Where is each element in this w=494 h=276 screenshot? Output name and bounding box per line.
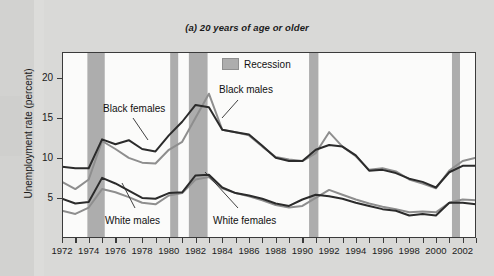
x-tick-label-1984: 1984 — [212, 245, 233, 256]
annotation-leader-1 — [133, 118, 148, 140]
x-tick-label-1976: 1976 — [105, 245, 126, 256]
y-tick-15 — [57, 118, 62, 119]
x-tick-1974 — [89, 238, 90, 243]
x-tick-label-1992: 1992 — [319, 245, 340, 256]
annotation-leader-4 — [205, 172, 238, 208]
x-tick-label-2000: 2000 — [425, 245, 446, 256]
axis-frame-bottom — [62, 237, 476, 238]
x-tick-1999 — [423, 238, 424, 243]
x-tick-1992 — [329, 238, 330, 243]
page-margin-left-2 — [34, 0, 44, 276]
x-tick-1980 — [169, 238, 170, 243]
x-tick-1997 — [396, 238, 397, 243]
x-tick-1989 — [289, 238, 290, 243]
recession-band-1 — [87, 52, 104, 238]
x-tick-label-1994: 1994 — [345, 245, 366, 256]
x-tick-1987 — [262, 238, 263, 243]
x-tick-1984 — [222, 238, 223, 243]
x-tick-label-1980: 1980 — [158, 245, 179, 256]
y-tick-label-5: 5 — [47, 193, 53, 203]
y-tick-20 — [57, 78, 62, 79]
legend-label-recession: Recession — [244, 59, 291, 70]
x-tick-1975 — [102, 238, 103, 243]
y-tick-label-10: 10 — [42, 153, 53, 163]
chart-title: (a) 20 years of age or older — [0, 22, 494, 33]
x-tick-label-1978: 1978 — [132, 245, 153, 256]
recession-band-3 — [189, 52, 208, 238]
x-tick-1983 — [209, 238, 210, 243]
x-tick-label-1982: 1982 — [185, 245, 206, 256]
x-tick-1973 — [75, 238, 76, 243]
x-tick-1982 — [196, 238, 197, 243]
annotation-black-males: Black males — [219, 84, 273, 95]
annotation-leader-2 — [222, 100, 238, 118]
x-tick-1979 — [156, 238, 157, 243]
x-tick-1990 — [302, 238, 303, 243]
x-tick-1988 — [276, 238, 277, 243]
x-tick-label-1990: 1990 — [292, 245, 313, 256]
plot-area: 5101520 19721974197619781980198219841986… — [62, 52, 476, 238]
series-line-black-males — [62, 105, 476, 188]
axis-frame-left — [62, 52, 63, 238]
x-tick-1977 — [129, 238, 130, 243]
recession-band-4 — [309, 52, 318, 238]
x-tick-label-1998: 1998 — [399, 245, 420, 256]
recession-band-5 — [452, 52, 460, 238]
x-tick-1985 — [236, 238, 237, 243]
x-tick-1995 — [369, 238, 370, 243]
x-tick-label-1972: 1972 — [51, 245, 72, 256]
y-tick-label-15: 15 — [42, 113, 53, 123]
x-tick-2000 — [436, 238, 437, 243]
series-line-white-females — [62, 177, 476, 214]
figure-page: (a) 20 years of age or older Unemploymen… — [0, 0, 494, 276]
x-tick-1972 — [62, 238, 63, 243]
y-axis-label: Unemployment rate (percent) — [23, 34, 34, 234]
y-tick-label-20: 20 — [42, 73, 53, 83]
x-tick-2003 — [476, 238, 477, 243]
x-tick-1986 — [249, 238, 250, 243]
x-tick-1998 — [409, 238, 410, 243]
annotation-black-females: Black females — [103, 103, 165, 114]
axis-frame-right — [475, 52, 476, 238]
chart-canvas — [62, 52, 476, 238]
legend: Recession — [222, 58, 291, 70]
x-tick-1996 — [383, 238, 384, 243]
y-tick-5 — [57, 198, 62, 199]
annotation-white-females: White females — [213, 215, 276, 226]
axis-frame-top — [62, 52, 476, 53]
annotation-white-males: White males — [105, 215, 160, 226]
x-tick-1994 — [356, 238, 357, 243]
x-tick-2001 — [449, 238, 450, 243]
y-tick-10 — [57, 158, 62, 159]
x-tick-2002 — [463, 238, 464, 243]
x-tick-label-2002: 2002 — [452, 245, 473, 256]
page-margin-patch — [0, 96, 22, 156]
x-tick-1976 — [115, 238, 116, 243]
recession-swatch-icon — [222, 58, 239, 70]
x-tick-label-1986: 1986 — [238, 245, 259, 256]
x-tick-1993 — [343, 238, 344, 243]
x-tick-label-1988: 1988 — [265, 245, 286, 256]
x-tick-label-1996: 1996 — [372, 245, 393, 256]
x-tick-1978 — [142, 238, 143, 243]
x-tick-1981 — [182, 238, 183, 243]
x-tick-label-1974: 1974 — [78, 245, 99, 256]
x-tick-1991 — [316, 238, 317, 243]
